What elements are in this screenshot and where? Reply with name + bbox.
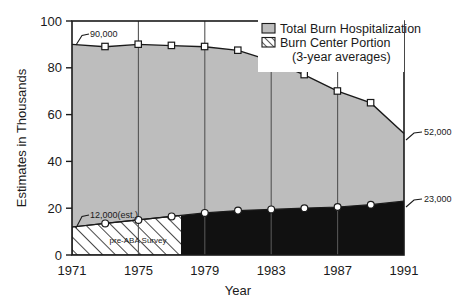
legend-note-averages: (3-year averages) bbox=[292, 50, 391, 64]
annotation-52000: 52,000 bbox=[406, 127, 452, 140]
annotation-90000-label: 90,000 bbox=[90, 29, 118, 39]
ytick-label-20: 20 bbox=[48, 201, 62, 216]
chart-canvas: 0 20 40 60 80 100 1971 1975 1979 1983 19… bbox=[0, 0, 472, 304]
x-axis-title: Year bbox=[225, 283, 252, 298]
annotation-52000-label: 52,000 bbox=[424, 127, 452, 137]
ytick-label-100: 100 bbox=[40, 14, 62, 29]
annotation-12000-label: 12,000(est.) bbox=[90, 210, 138, 220]
legend-swatch-total-burn-icon bbox=[262, 24, 275, 34]
legend-swatch-burn-center-icon bbox=[262, 38, 275, 48]
pre-aba-survey-label: pre-ABA Survey bbox=[110, 236, 167, 245]
ytick-label-0: 0 bbox=[55, 248, 62, 263]
legend: Total Burn Hospitalization Burn Center P… bbox=[258, 18, 421, 72]
ytick-label-40: 40 bbox=[48, 154, 62, 169]
ytick-label-60: 60 bbox=[48, 107, 62, 122]
xtick-label-1979: 1979 bbox=[190, 263, 219, 278]
xtick-label-1983: 1983 bbox=[257, 263, 286, 278]
y-axis-title: Estimates in Thousands bbox=[14, 68, 29, 207]
ytick-label-80: 80 bbox=[48, 60, 62, 75]
annotation-23000: 23,000 bbox=[406, 194, 452, 207]
legend-label-burn-center: Burn Center Portion bbox=[280, 36, 391, 50]
xtick-label-1987: 1987 bbox=[323, 263, 352, 278]
burn-hospitalization-area-chart: 0 20 40 60 80 100 1971 1975 1979 1983 19… bbox=[0, 0, 472, 304]
annotation-23000-label: 23,000 bbox=[424, 194, 452, 204]
xtick-label-1971: 1971 bbox=[58, 263, 87, 278]
legend-label-total-burn: Total Burn Hospitalization bbox=[280, 22, 421, 36]
xtick-label-1991: 1991 bbox=[390, 263, 419, 278]
y-axis-ticks bbox=[66, 21, 72, 255]
xtick-label-1975: 1975 bbox=[124, 263, 153, 278]
